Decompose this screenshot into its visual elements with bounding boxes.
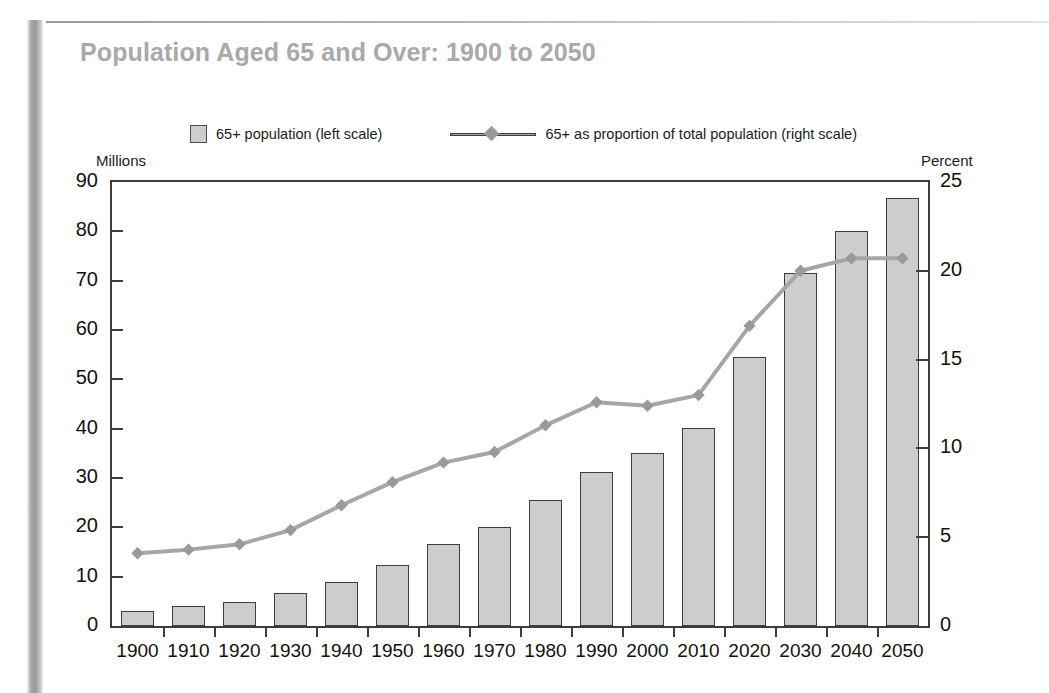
legend-item-bars: 65+ population (left scale) bbox=[190, 125, 382, 143]
x-tick-1910 bbox=[163, 628, 165, 637]
line-marker-1960 bbox=[437, 456, 449, 468]
line-marker-1950 bbox=[386, 476, 398, 488]
plot-inner bbox=[112, 182, 928, 626]
legend-bar-label: 65+ population (left scale) bbox=[216, 126, 382, 142]
chart-page: Population Aged 65 and Over: 1900 to 205… bbox=[0, 0, 1049, 693]
x-axis-label-2050: 2050 bbox=[871, 640, 935, 662]
line-path bbox=[138, 258, 903, 553]
book-spine-shadow bbox=[27, 20, 43, 693]
line-marker-1910 bbox=[182, 543, 194, 555]
left-tick-70 bbox=[110, 280, 123, 282]
left-axis-label-30: 30 bbox=[58, 465, 98, 488]
legend-line-diamond-icon bbox=[450, 126, 536, 142]
right-axis-label-10: 10 bbox=[940, 435, 962, 458]
line-marker-1920 bbox=[233, 538, 245, 550]
x-tick-1990 bbox=[571, 628, 573, 637]
right-axis-caption: Percent bbox=[921, 152, 973, 169]
right-tick-20 bbox=[916, 270, 929, 272]
x-tick-2020 bbox=[724, 628, 726, 637]
x-tick-2040 bbox=[826, 628, 828, 637]
right-axis-label-15: 15 bbox=[940, 347, 962, 370]
line-marker-2040 bbox=[845, 252, 857, 264]
page-edge bbox=[43, 20, 46, 693]
line-marker-2050 bbox=[896, 252, 908, 264]
x-tick-1980 bbox=[520, 628, 522, 637]
left-tick-60 bbox=[110, 329, 123, 331]
chart-legend: 65+ population (left scale) 65+ as propo… bbox=[190, 125, 857, 143]
legend-item-line: 65+ as proportion of total population (r… bbox=[450, 126, 857, 142]
left-axis-label-90: 90 bbox=[58, 169, 98, 192]
x-tick-1970 bbox=[469, 628, 471, 637]
legend-bar-swatch-icon bbox=[190, 125, 207, 143]
left-axis-label-20: 20 bbox=[58, 514, 98, 537]
x-tick-2010 bbox=[673, 628, 675, 637]
x-tick-2050 bbox=[877, 628, 879, 637]
right-tick-10 bbox=[916, 447, 929, 449]
right-axis-label-5: 5 bbox=[940, 524, 951, 547]
left-axis-caption: Millions bbox=[96, 152, 146, 169]
right-axis-label-0: 0 bbox=[940, 613, 951, 636]
line-marker-1990 bbox=[590, 396, 602, 408]
x-tick-1930 bbox=[265, 628, 267, 637]
left-tick-20 bbox=[110, 526, 123, 528]
line-marker-1900 bbox=[131, 547, 143, 559]
line-marker-2000 bbox=[641, 400, 653, 412]
left-tick-10 bbox=[110, 576, 123, 578]
right-axis-label-25: 25 bbox=[940, 169, 962, 192]
page-title: Population Aged 65 and Over: 1900 to 205… bbox=[80, 38, 596, 67]
x-tick-1960 bbox=[418, 628, 420, 637]
left-axis-label-10: 10 bbox=[58, 564, 98, 587]
x-tick-1950 bbox=[367, 628, 369, 637]
x-tick-2030 bbox=[775, 628, 777, 637]
left-axis-label-60: 60 bbox=[58, 317, 98, 340]
left-axis-label-0: 0 bbox=[58, 613, 98, 636]
plot-area bbox=[110, 180, 930, 628]
left-tick-40 bbox=[110, 428, 123, 430]
top-divider-rule bbox=[46, 21, 1049, 23]
left-axis-label-80: 80 bbox=[58, 218, 98, 241]
left-axis-label-70: 70 bbox=[58, 268, 98, 291]
left-tick-30 bbox=[110, 477, 123, 479]
left-tick-80 bbox=[110, 230, 123, 232]
line-series-layer bbox=[112, 182, 928, 626]
legend-line-label: 65+ as proportion of total population (r… bbox=[545, 126, 857, 142]
left-axis-label-40: 40 bbox=[58, 416, 98, 439]
x-tick-1920 bbox=[214, 628, 216, 637]
right-tick-5 bbox=[916, 536, 929, 538]
x-tick-2000 bbox=[622, 628, 624, 637]
x-tick-1940 bbox=[316, 628, 318, 637]
left-axis-label-50: 50 bbox=[58, 366, 98, 389]
right-tick-15 bbox=[916, 359, 929, 361]
right-axis-label-20: 20 bbox=[940, 258, 962, 281]
left-tick-50 bbox=[110, 378, 123, 380]
